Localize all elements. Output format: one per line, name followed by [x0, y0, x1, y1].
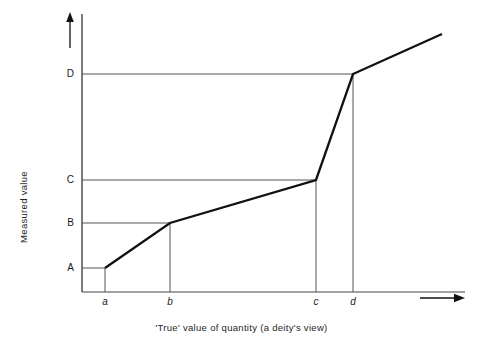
response-curve	[105, 34, 442, 268]
x-tick-label-b: b	[162, 297, 178, 307]
y-axis-title: Measured value	[15, 137, 33, 277]
y-tick-label-B: B	[58, 218, 74, 228]
x-axis-arrow-icon	[420, 294, 465, 302]
x-tick-label-d: d	[345, 297, 361, 307]
y-tick-label-D: D	[58, 69, 74, 79]
figure-canvas: Measured value 'True' value of quantity …	[0, 0, 483, 346]
x-tick-label-c: c	[308, 297, 324, 307]
x-axis-title: 'True' value of quantity (a deity's view…	[0, 322, 483, 333]
chart-svg	[0, 0, 483, 346]
y-tick-label-C: C	[58, 175, 74, 185]
x-tick-label-a: a	[97, 297, 113, 307]
y-axis-arrow-icon	[66, 12, 74, 48]
y-tick-label-A: A	[58, 263, 74, 273]
